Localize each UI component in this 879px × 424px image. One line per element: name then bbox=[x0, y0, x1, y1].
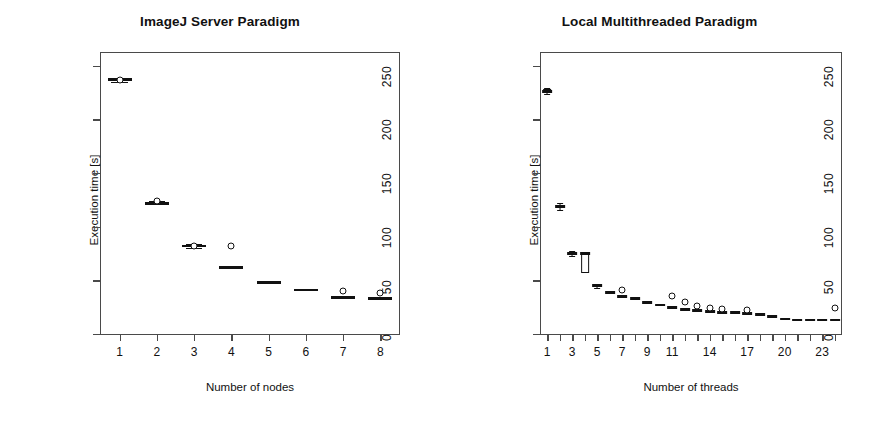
median-line bbox=[331, 296, 355, 299]
boxplot-right bbox=[568, 53, 576, 334]
y-tick-right bbox=[533, 173, 540, 174]
boxplot-right bbox=[806, 53, 814, 334]
outlier-point bbox=[228, 243, 235, 250]
x-tick-right bbox=[585, 334, 586, 341]
outlier-point bbox=[619, 287, 626, 294]
median-line bbox=[617, 295, 627, 298]
boxplot-left bbox=[146, 53, 168, 334]
x-tick-right bbox=[610, 334, 611, 341]
median-line bbox=[780, 318, 790, 321]
boxplot-right bbox=[731, 53, 739, 334]
median-line bbox=[767, 315, 777, 318]
y-tick-label-left: 0 bbox=[380, 334, 394, 341]
boxplot-right bbox=[706, 53, 714, 334]
x-tick-right bbox=[672, 334, 673, 341]
boxplot-right bbox=[606, 53, 614, 334]
plot-area-left: Execution time [s] Number of nodes 05010… bbox=[100, 52, 400, 335]
boxplot-right bbox=[543, 53, 551, 334]
median-line bbox=[792, 319, 802, 322]
x-tick-label-right: 3 bbox=[569, 345, 576, 359]
boxplot-right bbox=[781, 53, 789, 334]
x-tick-label-left: 3 bbox=[191, 345, 198, 359]
outlier-point bbox=[377, 290, 384, 297]
boxplot-right bbox=[718, 53, 726, 334]
outlier-point bbox=[191, 243, 198, 250]
y-tick-right bbox=[533, 66, 540, 67]
x-tick-right bbox=[635, 334, 636, 341]
median-line bbox=[730, 311, 740, 314]
x-tick-right bbox=[822, 334, 823, 341]
x-tick-label-left: 7 bbox=[340, 345, 347, 359]
x-tick-label-right: 9 bbox=[644, 345, 651, 359]
boxplot-right bbox=[793, 53, 801, 334]
median-line bbox=[630, 297, 640, 300]
x-tick-label-left: 6 bbox=[302, 345, 309, 359]
x-tick-left bbox=[380, 334, 381, 341]
x-tick-right bbox=[747, 334, 748, 341]
x-tick-label-right: 20 bbox=[778, 345, 792, 359]
cap-lower bbox=[544, 94, 550, 95]
x-tick-label-right: 5 bbox=[594, 345, 601, 359]
x-tick-right bbox=[647, 334, 648, 341]
boxplot-right bbox=[681, 53, 689, 334]
median-line bbox=[542, 90, 552, 93]
median-line bbox=[592, 284, 602, 287]
boxplot-right bbox=[593, 53, 601, 334]
median-line bbox=[555, 205, 565, 208]
median-line bbox=[680, 308, 690, 311]
x-tick-right bbox=[622, 334, 623, 341]
x-tick-right bbox=[547, 334, 548, 341]
x-tick-right bbox=[810, 334, 811, 341]
x-tick-right bbox=[572, 334, 573, 341]
median-line bbox=[667, 306, 677, 309]
x-tick-right bbox=[797, 334, 798, 341]
y-tick-left bbox=[93, 66, 100, 67]
x-tick-label-right: 17 bbox=[740, 345, 754, 359]
x-tick-label-right: 11 bbox=[666, 345, 679, 359]
median-line bbox=[755, 313, 765, 316]
median-line bbox=[368, 297, 392, 300]
x-tick-label-left: 1 bbox=[116, 345, 123, 359]
y-tick-left bbox=[93, 119, 100, 120]
x-tick-left bbox=[231, 334, 232, 341]
x-tick-label-right: 1 bbox=[544, 345, 551, 359]
outlier-point bbox=[340, 288, 347, 295]
boxplot-left bbox=[258, 53, 280, 334]
x-tick-right bbox=[697, 334, 698, 341]
boxplot-left bbox=[183, 53, 205, 334]
plot-area-right: Execution time [s] Number of threads 050… bbox=[540, 52, 842, 335]
outlier-point bbox=[694, 303, 701, 310]
panel-imagej-server: ImageJ Server Paradigm Execution time [s… bbox=[0, 0, 440, 424]
y-tick-right bbox=[533, 280, 540, 281]
cap-lower bbox=[569, 256, 575, 257]
median-line bbox=[642, 301, 652, 304]
x-tick-left bbox=[194, 334, 195, 341]
boxplot-left bbox=[295, 53, 317, 334]
x-tick-right bbox=[685, 334, 686, 341]
x-tick-left bbox=[343, 334, 344, 341]
panel-title-right: Local Multithreaded Paradigm bbox=[440, 14, 879, 29]
boxplot-right bbox=[631, 53, 639, 334]
y-tick-right bbox=[533, 334, 540, 335]
median-line bbox=[219, 266, 243, 269]
x-tick-right bbox=[835, 334, 836, 341]
outlier-point bbox=[744, 307, 751, 314]
x-tick-right bbox=[597, 334, 598, 341]
boxplot-right bbox=[756, 53, 764, 334]
x-tick-right bbox=[660, 334, 661, 341]
cap-lower bbox=[557, 210, 563, 211]
y-axis-label-left: Execution time [s] bbox=[88, 154, 100, 245]
y-tick-left bbox=[93, 227, 100, 228]
x-tick-left bbox=[120, 334, 121, 341]
outlier-point bbox=[719, 306, 726, 313]
median-line bbox=[294, 289, 318, 292]
y-tick-right bbox=[533, 227, 540, 228]
boxplot-right bbox=[831, 53, 839, 334]
outlier-point bbox=[681, 298, 688, 305]
x-tick-right bbox=[735, 334, 736, 341]
x-tick-right bbox=[772, 334, 773, 341]
boxplot-right bbox=[656, 53, 664, 334]
median-line bbox=[817, 319, 827, 322]
cap-lower bbox=[594, 288, 600, 289]
median-line bbox=[830, 319, 840, 322]
